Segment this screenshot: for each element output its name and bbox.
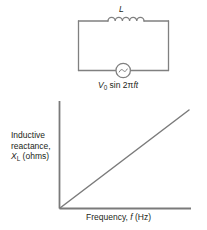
inductor-coil-icon [108, 17, 144, 21]
y-axis-label-line-1: Inductive [11, 130, 57, 141]
y-axis-symbol: X [11, 151, 17, 161]
y-axis-unit: (ohms) [20, 151, 49, 161]
inductive-reactance-figure: L V0 sin 2πft Inductive reactance, XL (o… [0, 0, 207, 230]
y-axis-label-line-3: XL (ohms) [11, 151, 57, 162]
y-axis-symbol-subscript: L [17, 155, 21, 162]
source-time-symbol: t [136, 80, 138, 90]
figure-graphics [0, 0, 207, 230]
source-expression: sin 2π [107, 80, 133, 90]
ac-inductor-circuit [79, 17, 169, 77]
reactance-line-series [60, 110, 189, 208]
x-axis-label: Frequency, f (Hz) [86, 212, 151, 223]
x-axis-label-text: Frequency, [86, 212, 130, 222]
y-axis-label-line-2: reactance, [11, 141, 57, 152]
reactance-graph [60, 101, 192, 209]
inductor-label: L [119, 4, 124, 15]
x-axis-unit: (Hz) [133, 212, 151, 222]
ac-source-label: V0 sin 2πft [98, 80, 138, 91]
source-amplitude-subscript: 0 [104, 84, 108, 91]
y-axis-label: Inductive reactance, XL (ohms) [11, 130, 57, 162]
source-amplitude-symbol: V [98, 80, 104, 90]
